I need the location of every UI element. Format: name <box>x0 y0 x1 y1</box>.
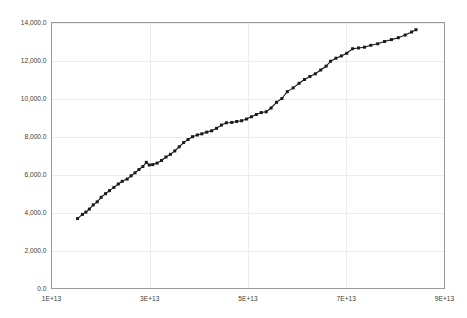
series-polyline-group <box>78 30 416 219</box>
data-point-marker <box>210 129 213 132</box>
y-axis-tick-label: 14,000.0 <box>21 19 47 26</box>
data-point-marker <box>220 124 223 127</box>
data-point-marker <box>112 186 115 189</box>
data-point-marker <box>76 217 79 220</box>
data-point-marker <box>334 57 337 60</box>
data-point-marker <box>345 52 348 55</box>
data-point-marker <box>88 208 91 211</box>
data-point-marker <box>329 60 332 63</box>
data-point-marker <box>351 47 354 50</box>
data-point-marker <box>286 90 289 93</box>
data-point-marker <box>340 54 343 57</box>
data-point-marker <box>250 115 253 118</box>
data-point-marker <box>117 183 120 186</box>
data-point-marker <box>390 38 393 41</box>
data-point-marker <box>169 153 172 156</box>
data-point-marker <box>141 165 144 168</box>
data-point-marker <box>205 131 208 134</box>
data-point-marker <box>191 135 194 138</box>
x-axis-tick-label: 1E+13 <box>42 295 62 302</box>
data-point-marker <box>200 132 203 135</box>
data-point-marker <box>178 145 181 148</box>
data-point-marker <box>275 101 278 104</box>
data-point-marker <box>298 82 301 85</box>
data-point-marker <box>182 141 185 144</box>
data-point-marker <box>303 78 306 81</box>
y-axis-tick-label: 6,000.0 <box>25 171 47 178</box>
data-point-marker <box>292 86 295 89</box>
data-point-marker <box>104 192 107 195</box>
x-axis-tick-labels: 1E+133E+135E+137E+139E+13 <box>42 295 455 302</box>
y-axis-tick-label: 0.0 <box>37 285 46 292</box>
data-point-marker <box>230 121 233 124</box>
data-point-marker <box>255 113 258 116</box>
data-point-marker <box>96 200 99 203</box>
series-marker-group <box>76 28 417 220</box>
data-point-marker <box>160 159 163 162</box>
y-axis-tick-label: 2,000.0 <box>25 247 47 254</box>
data-point-marker <box>245 118 248 121</box>
data-point-marker <box>410 31 413 34</box>
y-axis-tick-label: 4,000.0 <box>25 209 47 216</box>
data-point-marker <box>130 174 133 177</box>
data-point-marker <box>121 180 124 183</box>
data-point-marker <box>280 97 283 100</box>
data-point-marker <box>397 36 400 39</box>
vertical-gridlines <box>151 23 347 289</box>
data-point-marker <box>84 211 87 214</box>
chart-container: 0.02,000.04,000.06,000.08,000.010,000.01… <box>0 0 467 318</box>
data-point-marker <box>137 168 140 171</box>
data-point-marker <box>108 189 111 192</box>
data-point-marker <box>235 120 238 123</box>
x-axis-tick-label: 5E+13 <box>238 295 258 302</box>
y-axis-tick-labels: 0.02,000.04,000.06,000.08,000.010,000.01… <box>21 19 47 292</box>
data-point-marker <box>81 213 84 216</box>
data-point-marker <box>151 163 154 166</box>
data-point-marker <box>164 156 167 159</box>
y-axis-tick-label: 8,000.0 <box>25 133 47 140</box>
y-axis-tick-label: 10,000.0 <box>21 95 47 102</box>
data-point-marker <box>134 171 137 174</box>
data-point-marker <box>314 72 317 75</box>
data-point-marker <box>173 149 176 152</box>
data-point-marker <box>260 111 263 114</box>
data-point-marker <box>265 110 268 113</box>
x-axis-tick-label: 9E+13 <box>435 295 455 302</box>
data-point-marker <box>325 65 328 68</box>
data-point-marker <box>215 127 218 130</box>
data-point-marker <box>126 178 129 181</box>
data-point-marker <box>196 133 199 136</box>
data-point-marker <box>225 121 228 124</box>
data-point-marker <box>357 46 360 49</box>
data-point-marker <box>319 69 322 72</box>
data-point-marker <box>240 119 243 122</box>
data-point-marker <box>145 161 148 164</box>
data-point-marker <box>100 196 103 199</box>
data-point-marker <box>383 40 386 43</box>
line-chart: 0.02,000.04,000.06,000.08,000.010,000.01… <box>0 0 467 318</box>
data-point-marker <box>148 164 151 167</box>
x-axis-tick-label: 7E+13 <box>337 295 357 302</box>
data-point-marker <box>92 203 95 206</box>
data-series-line <box>78 30 416 219</box>
data-point-marker <box>369 44 372 47</box>
data-point-marker <box>376 42 379 45</box>
x-axis-tick-label: 3E+13 <box>140 295 160 302</box>
data-point-marker <box>187 138 190 141</box>
data-point-marker <box>270 107 273 110</box>
data-point-marker <box>404 34 407 37</box>
data-point-marker <box>363 46 366 49</box>
data-point-marker <box>308 75 311 78</box>
data-point-marker <box>156 162 159 165</box>
y-axis-tick-label: 12,000.0 <box>21 57 47 64</box>
data-point-marker <box>415 28 418 31</box>
